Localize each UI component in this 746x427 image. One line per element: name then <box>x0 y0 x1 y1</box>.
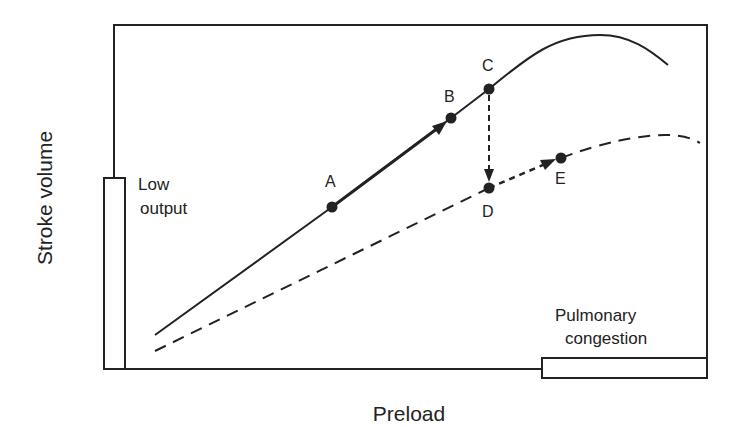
low-output-label-line2: output <box>140 199 187 219</box>
depressed-curve-upper <box>561 135 700 158</box>
low-output-bar <box>104 178 125 369</box>
arrowhead-b-icon <box>432 121 447 135</box>
x-axis-label: Preload <box>373 402 445 426</box>
depressed-curve <box>155 188 489 351</box>
pulmonary-congestion-bar <box>542 358 707 378</box>
point-e-label: E <box>555 170 566 188</box>
y-axis-label: Stroke volume <box>33 131 57 265</box>
point-c-label: C <box>482 57 494 75</box>
point-d <box>484 183 495 194</box>
low-output-label-line1: Low <box>138 175 169 195</box>
point-a <box>327 202 338 213</box>
normal-curve <box>155 35 668 335</box>
point-b <box>446 113 457 124</box>
arrow-a-to-b <box>332 125 442 207</box>
pulmonary-congestion-label-line2: congestion <box>565 329 647 349</box>
point-c <box>484 84 495 95</box>
point-a-label: A <box>325 173 336 191</box>
frank-starling-diagram <box>0 0 746 427</box>
point-e <box>556 153 567 164</box>
arrow-d-to-e <box>489 162 550 188</box>
pulmonary-congestion-label-line1: Pulmonary <box>555 306 636 326</box>
arrowhead-e-icon <box>540 159 556 170</box>
point-b-label: B <box>444 88 455 106</box>
arrowhead-d-icon <box>484 169 494 182</box>
point-d-label: D <box>482 203 494 221</box>
